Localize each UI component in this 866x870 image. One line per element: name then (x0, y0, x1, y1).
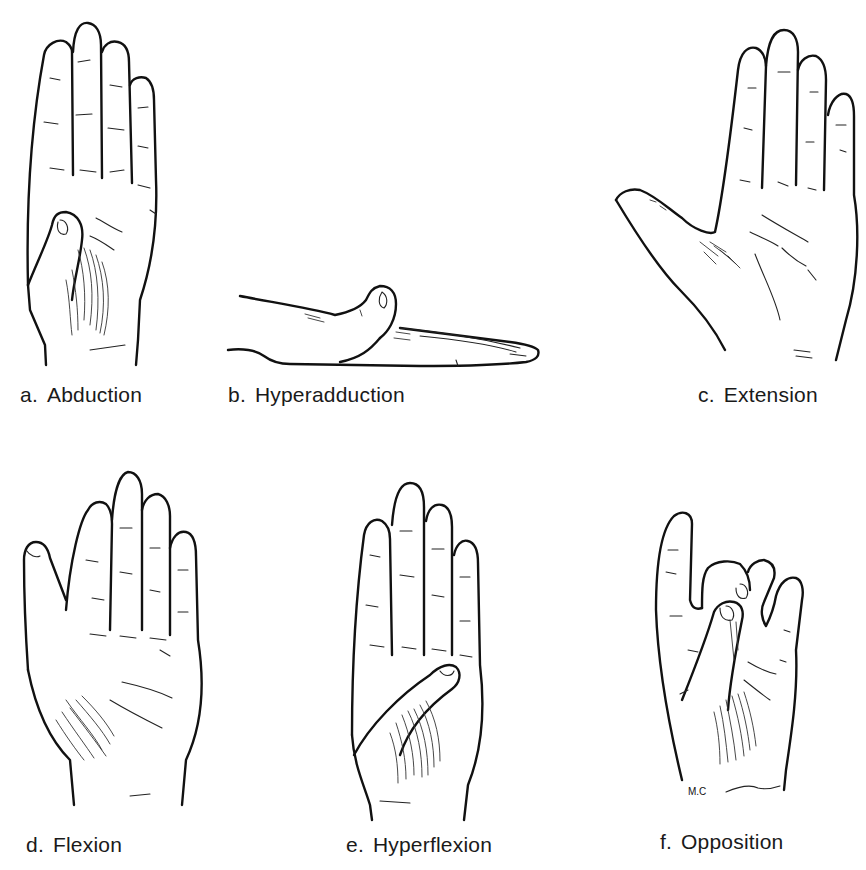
caption-label: Abduction (47, 383, 142, 406)
caption-label: Hyperadduction (255, 383, 405, 406)
panel-hyperflexion (340, 465, 510, 825)
panel-extension (600, 20, 866, 380)
panel-hyperadduction (220, 270, 550, 370)
caption-letter: f. (660, 830, 672, 853)
panel-opposition: M.C (640, 500, 820, 820)
caption-letter: e. (346, 833, 364, 856)
caption-hyperflexion: e.Hyperflexion (346, 833, 492, 857)
caption-letter: b. (228, 383, 246, 406)
panel-abduction (0, 0, 200, 380)
artist-signature: M.C (688, 786, 706, 797)
caption-label: Flexion (53, 833, 122, 856)
caption-label: Opposition (681, 830, 783, 853)
hand-hyperadduction-illustration (220, 270, 550, 370)
caption-abduction: a.Abduction (20, 383, 142, 407)
caption-letter: c. (698, 383, 715, 406)
caption-hyperadduction: b.Hyperadduction (228, 383, 405, 407)
hand-abduction-illustration (0, 0, 200, 380)
caption-letter: d. (26, 833, 44, 856)
hand-opposition-illustration (640, 500, 820, 820)
caption-flexion: d.Flexion (26, 833, 122, 857)
hand-hyperflexion-illustration (340, 465, 510, 825)
hand-flexion-illustration (10, 460, 220, 820)
caption-letter: a. (20, 383, 38, 406)
caption-opposition: f.Opposition (660, 830, 783, 854)
panel-flexion (10, 460, 220, 820)
caption-label: Hyperflexion (373, 833, 492, 856)
hand-extension-illustration (600, 20, 866, 380)
caption-label: Extension (724, 383, 818, 406)
caption-extension: c.Extension (698, 383, 818, 407)
